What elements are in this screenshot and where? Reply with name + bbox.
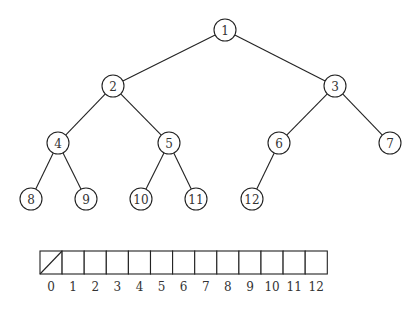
array-index-label: 1 [69, 280, 77, 294]
tree-edge-4-9 [63, 153, 81, 189]
tree-edge-5-11 [174, 153, 191, 189]
tree-node-2: 2 [102, 75, 124, 97]
tree-node-5: 5 [158, 132, 180, 154]
array-index-label: 8 [224, 280, 232, 294]
array-index-label: 2 [91, 280, 99, 294]
array-cell-7 [195, 251, 217, 274]
array-index-label: 11 [287, 280, 302, 294]
node-label: 11 [188, 193, 203, 207]
node-label: 3 [331, 80, 339, 94]
array-index-label: 10 [264, 280, 279, 294]
tree-node-12: 12 [241, 188, 263, 210]
array-index-labels: 0123456789101112 [47, 280, 324, 294]
array-index-label: 4 [136, 280, 144, 294]
array-cell-12 [305, 251, 327, 274]
array-index-label: 5 [158, 280, 166, 294]
node-label: 2 [109, 80, 117, 94]
array-index-label: 9 [246, 280, 254, 294]
node-label: 5 [165, 137, 173, 151]
tree-node-11: 11 [185, 188, 207, 210]
node-label: 12 [244, 193, 259, 207]
array-cell-8 [217, 251, 239, 274]
array-index-label: 6 [180, 280, 188, 294]
tree-node-1: 1 [214, 19, 236, 41]
array-index-label: 12 [309, 280, 324, 294]
tree-node-9: 9 [75, 188, 97, 210]
node-label: 7 [386, 137, 394, 151]
tree-edges [36, 35, 383, 189]
tree-node-10: 10 [130, 188, 152, 210]
tree-node-7: 7 [379, 132, 401, 154]
array-cell-3 [106, 251, 128, 274]
tree-edge-5-10 [146, 153, 164, 189]
node-label: 1 [221, 24, 229, 38]
tree-node-4: 4 [47, 132, 69, 154]
array-cell-1 [62, 251, 84, 274]
tree-edge-3-6 [287, 94, 328, 135]
tree-edge-2-4 [66, 94, 106, 135]
heap-array [40, 251, 327, 274]
array-cell-9 [239, 251, 261, 274]
array-cell-5 [151, 251, 173, 274]
tree-edge-1-2 [123, 35, 215, 81]
array-cell-2 [84, 251, 106, 274]
node-label: 9 [82, 193, 90, 207]
node-label: 4 [54, 137, 62, 151]
tree-node-8: 8 [20, 188, 42, 210]
array-index-label: 3 [114, 280, 122, 294]
array-cell-11 [283, 251, 305, 274]
array-index-label: 0 [47, 280, 55, 294]
node-label: 6 [275, 137, 283, 151]
tree-edge-4-8 [36, 153, 53, 189]
array-cell-6 [173, 251, 195, 274]
tree-edge-3-7 [343, 94, 383, 135]
heap-diagram: 123456789101112 0123456789101112 [0, 0, 417, 309]
array-cell-4 [128, 251, 150, 274]
tree-edge-1-3 [235, 35, 325, 81]
tree-edge-2-5 [121, 94, 162, 135]
node-label: 8 [27, 193, 35, 207]
node-label: 10 [133, 193, 148, 207]
array-cell-10 [261, 251, 283, 274]
array-index-label: 7 [202, 280, 210, 294]
tree-node-3: 3 [324, 75, 346, 97]
tree-node-6: 6 [268, 132, 290, 154]
tree-edge-6-12 [257, 153, 274, 189]
